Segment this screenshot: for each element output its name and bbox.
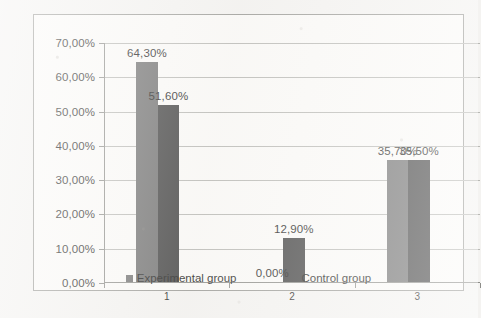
gridline — [104, 43, 480, 44]
bar-data-label: 64,30% — [127, 47, 167, 59]
y-axis-tick-label: 10,00% — [55, 243, 95, 255]
y-axis-tick-label: 60,00% — [55, 71, 95, 83]
y-axis-tick-label: 20,00% — [55, 208, 95, 220]
legend-label: Control group — [302, 272, 372, 284]
y-axis-tick-label: 40,00% — [55, 140, 95, 152]
chart-legend: Experimental groupControl group — [34, 272, 463, 284]
bar — [158, 105, 180, 282]
y-axis-tick-label: 70,00% — [55, 37, 95, 49]
legend-item[interactable]: Experimental group — [126, 272, 237, 284]
legend-item[interactable]: Control group — [291, 272, 372, 284]
chart-frame: 0,00%10,00%20,00%30,00%40,00%50,00%60,00… — [33, 14, 464, 291]
bar-data-label: 51,60% — [149, 90, 189, 102]
bar-data-label: 35,50% — [399, 145, 439, 157]
legend-label: Experimental group — [137, 272, 237, 284]
category-axis-label: 2 — [289, 291, 295, 302]
bar — [408, 160, 430, 282]
gridline — [104, 77, 480, 78]
category-axis-label: 3 — [415, 291, 421, 302]
legend-swatch-icon — [291, 275, 298, 282]
bar — [387, 160, 409, 282]
y-axis-tick-label: 50,00% — [55, 106, 95, 118]
y-axis-tick-label: 30,00% — [55, 174, 95, 186]
plot-area: 0,00%10,00%20,00%30,00%40,00%50,00%60,00… — [104, 43, 480, 283]
y-axis-line — [104, 43, 105, 283]
legend-swatch-icon — [126, 275, 133, 282]
category-axis-label: 1 — [164, 291, 170, 302]
bar-data-label: 12,90% — [274, 223, 314, 235]
